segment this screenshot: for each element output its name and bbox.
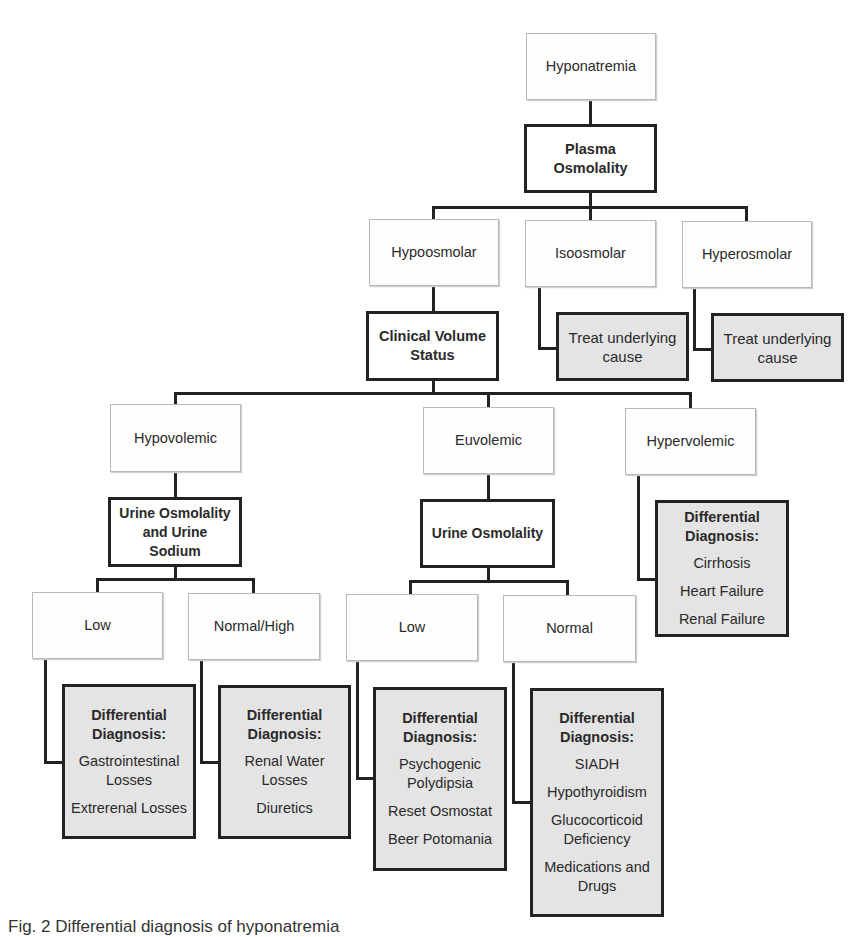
connector <box>44 658 47 763</box>
connector <box>566 580 569 595</box>
connector <box>693 287 696 350</box>
connector <box>174 471 177 499</box>
connector <box>487 473 490 501</box>
connector <box>512 801 531 804</box>
node-hypervolemic: Hypervolemic <box>625 408 756 475</box>
node-plasma-osmolality: Plasma Osmolality <box>524 124 657 193</box>
connector <box>512 661 515 803</box>
connector <box>589 206 592 221</box>
connector <box>44 761 64 764</box>
connector <box>637 578 657 581</box>
connector <box>356 660 359 779</box>
node-low-hypovolemic: Low <box>32 592 163 659</box>
node-label: Hyponatremia <box>546 57 636 76</box>
connector <box>96 578 255 581</box>
node-ddx-normal-euvolemic: Differential Diagnosis: SIADH Hypothyroi… <box>530 688 664 917</box>
node-isoosmolar: Isoosmolar <box>525 220 656 287</box>
connector <box>487 392 490 408</box>
connector <box>689 392 692 409</box>
connector <box>538 347 558 350</box>
node-treat-underlying-cause-hyper: Treat underlying cause <box>711 313 844 382</box>
connector <box>409 580 569 583</box>
node-ddx-low-euvolemic: Differential Diagnosis: Psychogenic Poly… <box>373 687 507 871</box>
node-ddx-low-hypovolemic: Differential Diagnosis: Gastrointestinal… <box>62 684 196 839</box>
connector <box>96 578 99 593</box>
connector <box>637 474 640 580</box>
connector <box>745 206 748 222</box>
connector <box>200 659 203 763</box>
connector <box>409 580 412 594</box>
connector <box>252 578 255 593</box>
connector <box>432 206 435 220</box>
node-hypoosmolar: Hypoosmolar <box>369 219 499 286</box>
node-low-euvolemic: Low <box>346 594 478 661</box>
node-normal-high: Normal/High <box>188 593 320 660</box>
connector <box>589 99 592 126</box>
node-euvolemic: Euvolemic <box>423 407 554 474</box>
connector <box>432 285 435 313</box>
node-normal-euvolemic: Normal <box>503 595 636 662</box>
node-hypovolemic: Hypovolemic <box>110 404 241 472</box>
node-urine-osmolality: Urine Osmolality <box>420 499 555 568</box>
node-treat-underlying-cause-iso: Treat underlying cause <box>556 312 689 381</box>
connector <box>174 392 692 395</box>
node-hyperosmolar: Hyperosmolar <box>682 221 812 288</box>
node-urine-osmolality-and-sodium: Urine Osmolality and Urine Sodium <box>108 497 242 567</box>
node-ddx-normal-high: Differential Diagnosis: Renal Water Loss… <box>218 685 351 839</box>
connector <box>693 348 713 351</box>
connector <box>538 286 541 349</box>
figure-caption: Fig. 2 Differential diagnosis of hyponat… <box>8 917 339 937</box>
connector <box>487 567 490 580</box>
node-hyponatremia: Hyponatremia <box>526 33 656 100</box>
node-clinical-volume-status: Clinical Volume Status <box>366 311 499 381</box>
connector <box>356 777 374 780</box>
connector <box>200 761 219 764</box>
node-ddx-hypervolemic: Differential Diagnosis: Cirrhosis Heart … <box>655 500 789 637</box>
